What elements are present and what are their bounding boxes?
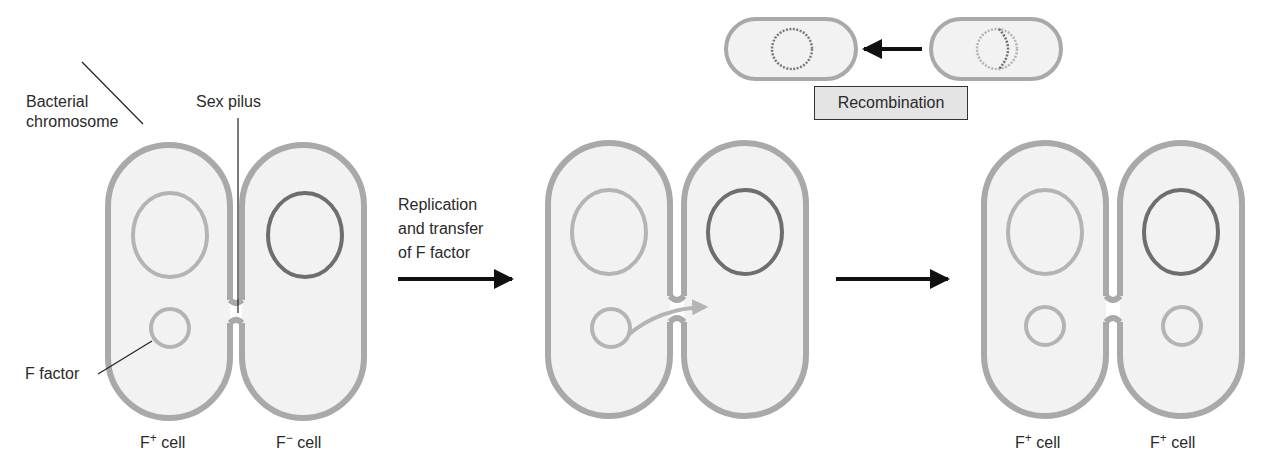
label-line: and transfer bbox=[398, 217, 483, 241]
cell-label-sup: − bbox=[286, 431, 293, 445]
cell-label-prefix: F bbox=[1015, 434, 1025, 451]
cell-label-stage1-left: F+ cell bbox=[140, 433, 185, 453]
f-plus-cell-wall-left-stage3 bbox=[984, 143, 1106, 416]
cell-label-suffix: cell bbox=[1032, 434, 1060, 451]
label-line: chromosome bbox=[26, 112, 118, 132]
cell-label-prefix: F bbox=[140, 434, 150, 451]
bacterial-chromosome-label: Bacterial chromosome bbox=[26, 92, 118, 132]
label-line: Replication bbox=[398, 193, 483, 217]
f-factor-label: F factor bbox=[25, 364, 79, 384]
cell-label-stage1-right: F− cell bbox=[276, 433, 321, 453]
cell-label-prefix: F bbox=[1150, 434, 1160, 451]
cell-label-stage3-right: F+ cell bbox=[1150, 433, 1195, 453]
stage-2-cell-pair bbox=[548, 143, 806, 416]
donor-cell-wall-stage2 bbox=[548, 143, 670, 416]
replication-transfer-label: Replication and transfer of F factor bbox=[398, 193, 483, 265]
cell-label-suffix: cell bbox=[157, 434, 185, 451]
recombination-label-box: Recombination bbox=[814, 86, 968, 120]
stage-1-cell-pair bbox=[82, 62, 364, 418]
label-line: of F factor bbox=[398, 241, 483, 265]
cell-label-prefix: F bbox=[276, 434, 286, 451]
cell-label-stage3-left: F+ cell bbox=[1015, 433, 1060, 453]
stage-3-cell-pair bbox=[984, 143, 1242, 416]
cell-label-suffix: cell bbox=[293, 434, 321, 451]
label-line: Bacterial bbox=[26, 92, 118, 112]
cell-label-suffix: cell bbox=[1167, 434, 1195, 451]
pilus-bridge bbox=[230, 300, 242, 323]
f-plus-cell-wall bbox=[108, 145, 230, 418]
recombination-inset bbox=[726, 19, 1061, 79]
sex-pilus-label: Sex pilus bbox=[196, 92, 261, 112]
cell-label-sup: + bbox=[1160, 431, 1167, 445]
conjugation-diagram bbox=[0, 0, 1263, 473]
f-plus-cell-wall-right-stage3 bbox=[1120, 143, 1242, 416]
cell-label-sup: + bbox=[1025, 431, 1032, 445]
f-minus-cell-wall bbox=[242, 145, 364, 418]
recipient-cell-wall-stage2 bbox=[684, 143, 806, 416]
cell-label-sup: + bbox=[150, 431, 157, 445]
